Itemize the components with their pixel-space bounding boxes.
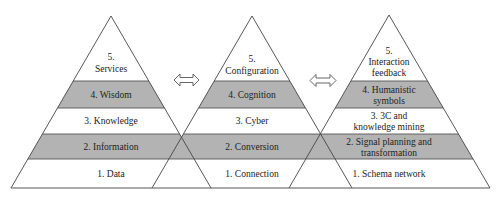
layer-label: knowledge mining (354, 122, 425, 132)
layer-label: 4. Cognition (228, 90, 276, 100)
double-arrow-icon (174, 74, 199, 86)
layer-label: 1. Connection (225, 169, 279, 179)
layer-label: Services (95, 64, 127, 74)
pyramid-middle-labels: 5. Configuration 4. Cognition 3. Cyber 2… (225, 54, 279, 179)
layer-label: 3. Cyber (236, 116, 270, 126)
layer-label: 5. (107, 52, 114, 62)
three-pyramid-diagram: 5. Services 4. Wisdom 3. Knowledge 2. In… (0, 0, 499, 198)
layer-label: 5. (385, 46, 392, 56)
layer-label: 3. Knowledge (84, 116, 137, 126)
layer-label: transformation (361, 148, 417, 158)
layer-label: 4. Humanistic (362, 85, 415, 95)
layer-label: 5. (248, 54, 255, 64)
layer-label: 1. Schema network (352, 169, 425, 179)
layer-label: symbols (373, 96, 405, 106)
layer-label: 1. Data (97, 169, 125, 179)
double-arrow-icon (310, 75, 336, 87)
layer-label: Configuration (225, 66, 279, 76)
layer-label: feedback (372, 68, 407, 78)
layer-label: 4. Wisdom (90, 90, 132, 100)
pyramid-left-labels: 5. Services 4. Wisdom 3. Knowledge 2. In… (84, 52, 139, 179)
layer-label: Interaction (368, 57, 409, 67)
layer-label: 2. Signal planning and (346, 137, 432, 147)
layer-label: 2. Information (84, 142, 139, 152)
layer-label: 2. Conversion (225, 142, 279, 152)
layer-label: 3. 3C and (371, 111, 408, 121)
